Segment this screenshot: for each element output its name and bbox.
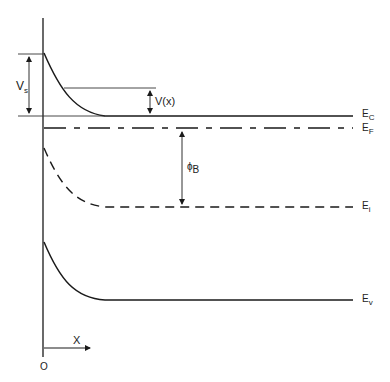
ei-label: Ei — [362, 200, 371, 214]
conduction-band-curve — [44, 53, 353, 116]
phib-label: ϕB — [187, 161, 200, 175]
ec-label: EC — [362, 108, 375, 122]
ef-label: EF — [362, 122, 374, 136]
valence-band-curve — [44, 242, 353, 300]
origin-label: O — [40, 361, 48, 372]
vx-label: V(x) — [155, 95, 175, 107]
x-axis-label: X — [73, 334, 81, 346]
ev-label: Ev — [362, 293, 373, 307]
vs-label: Vs — [16, 79, 28, 95]
band-diagram: Vs V(x) ϕB EC EF Ei Ev X O — [0, 0, 390, 382]
intrinsic-level-curve — [44, 148, 353, 207]
